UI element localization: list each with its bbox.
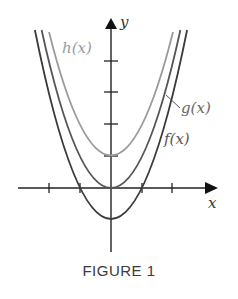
figure: h(x) g(x) f(x) x y — [0, 0, 238, 299]
label-g: g(x) — [181, 99, 211, 117]
label-h: h(x) — [62, 39, 92, 57]
y-axis-arrow-icon — [105, 18, 117, 29]
label-f: f(x) — [163, 130, 190, 148]
label-y-axis: y — [119, 13, 129, 31]
label-x-axis: x — [208, 194, 217, 212]
x-axis-arrow-icon — [205, 182, 218, 194]
graph: h(x) g(x) f(x) x y — [0, 0, 238, 299]
figure-caption: FIGURE 1 — [0, 262, 238, 279]
